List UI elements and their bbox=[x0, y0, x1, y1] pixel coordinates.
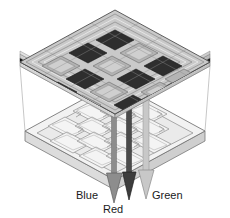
green-label: Green bbox=[152, 189, 183, 201]
diagram-canvas: Blue Red Green bbox=[0, 0, 230, 218]
blue-label: Blue bbox=[76, 189, 98, 201]
sensor-stack-figure: Blue Red Green bbox=[0, 0, 230, 218]
red-label: Red bbox=[103, 203, 123, 215]
